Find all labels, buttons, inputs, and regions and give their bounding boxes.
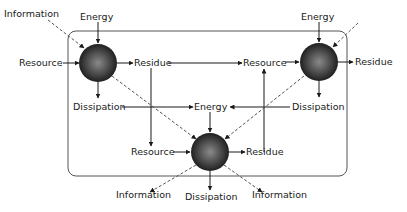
node2-residue-label: Residue <box>355 56 393 67</box>
node3-information-right-label: Information <box>252 189 307 200</box>
node3-energy-label: Energy <box>194 101 228 112</box>
node1-resource-label: Resource <box>19 57 63 68</box>
node2-dissipation-label: Dissipation <box>292 101 345 112</box>
node3-resource-label: Resource <box>131 146 175 157</box>
node3-residue-label: Residue <box>246 146 284 157</box>
node3-information-left-label: Information <box>116 189 171 200</box>
node1-residue-label: Residue <box>134 57 172 68</box>
process-node-3 <box>191 133 229 171</box>
node1-information-label: Information <box>4 8 59 19</box>
node1-energy-label: Energy <box>80 11 114 22</box>
process-network-diagram: Information Energy Resource Residue Diss… <box>0 0 407 212</box>
process-node-1 <box>79 44 117 82</box>
process-node-2 <box>300 43 338 81</box>
node2-resource-label: Resource <box>243 57 287 68</box>
node1-dissipation-label: Dissipation <box>73 101 126 112</box>
node2-energy-label: Energy <box>301 11 335 22</box>
node3-dissipation-label: Dissipation <box>185 191 238 202</box>
